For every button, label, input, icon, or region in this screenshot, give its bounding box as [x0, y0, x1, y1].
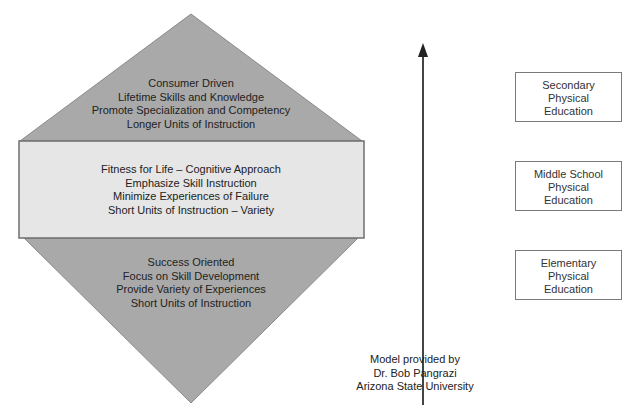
- bottom-line-3: Provide Variety of Experiences: [60, 283, 322, 297]
- model-credit: Model provided by Dr. Bob Pangrazi Arizo…: [352, 353, 478, 394]
- bottom-line-1: Success Oriented: [60, 256, 322, 270]
- elementary-line-3: Education: [516, 283, 621, 296]
- middle-section-text: Fitness for Life – Cognitive Approach Em…: [60, 163, 322, 217]
- elementary-line-1: Elementary: [516, 257, 621, 270]
- secondary-line-2: Physical: [516, 92, 621, 105]
- arrow-up-icon: [418, 43, 428, 405]
- bottom-section-text: Success Oriented Focus on Skill Developm…: [60, 256, 322, 310]
- bottom-line-2: Focus on Skill Development: [60, 270, 322, 284]
- middle-school-line-2: Physical: [516, 181, 621, 194]
- middle-line-4: Short Units of Instruction – Variety: [60, 204, 322, 218]
- secondary-line-1: Secondary: [516, 79, 621, 92]
- bottom-line-4: Short Units of Instruction: [60, 297, 322, 311]
- top-line-4: Longer Units of Instruction: [60, 118, 322, 132]
- level-box-middle-school: Middle School Physical Education: [515, 161, 622, 211]
- credit-line-2: Dr. Bob Pangrazi: [352, 367, 478, 381]
- elementary-line-2: Physical: [516, 270, 621, 283]
- middle-school-line-3: Education: [516, 194, 621, 207]
- middle-school-line-1: Middle School: [516, 168, 621, 181]
- middle-line-2: Emphasize Skill Instruction: [60, 177, 322, 191]
- level-box-elementary: Elementary Physical Education: [515, 250, 622, 300]
- credit-line-3: Arizona State University: [352, 380, 478, 394]
- middle-line-1: Fitness for Life – Cognitive Approach: [60, 163, 322, 177]
- top-line-3: Promote Specialization and Competency: [60, 104, 322, 118]
- top-section-text: Consumer Driven Lifetime Skills and Know…: [60, 77, 322, 131]
- middle-line-3: Minimize Experiences of Failure: [60, 190, 322, 204]
- level-box-secondary: Secondary Physical Education: [515, 72, 622, 122]
- secondary-line-3: Education: [516, 105, 621, 118]
- top-line-2: Lifetime Skills and Knowledge: [60, 91, 322, 105]
- credit-line-1: Model provided by: [352, 353, 478, 367]
- top-line-1: Consumer Driven: [60, 77, 322, 91]
